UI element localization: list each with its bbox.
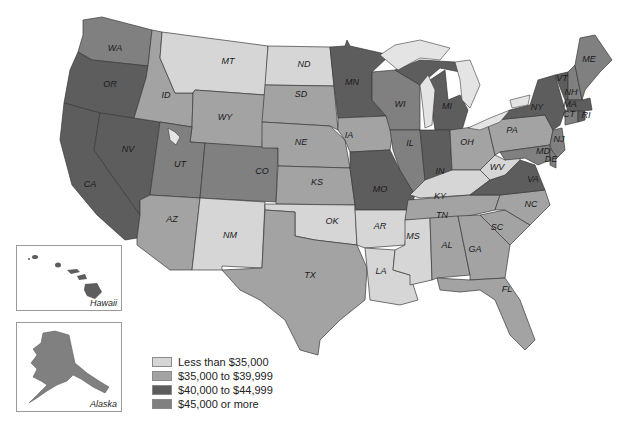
label-MI: MI: [442, 101, 452, 111]
label-VT: VT: [556, 73, 569, 83]
label-NY: NY: [531, 102, 544, 112]
alaska-inset: Alaska: [16, 322, 122, 412]
hawaii-inset: Hawaii: [16, 245, 122, 311]
island-niihau: [28, 258, 30, 260]
label-OR: OR: [103, 79, 117, 89]
label-ME: ME: [582, 54, 596, 64]
label-KS: KS: [311, 177, 323, 187]
legend-item-35-39: $35,000 to $39,999: [152, 369, 273, 382]
label-CA: CA: [84, 179, 97, 189]
label-OK: OK: [325, 216, 339, 226]
legend-swatch: [152, 357, 172, 367]
label-WY: WY: [218, 112, 233, 122]
legend: Less than $35,000 $35,000 to $39,999 $40…: [152, 355, 273, 411]
label-WI: WI: [395, 99, 406, 109]
legend-label: Less than $35,000: [178, 356, 269, 368]
label-WA: WA: [108, 43, 122, 53]
label-OH: OH: [460, 137, 474, 147]
label-MO: MO: [373, 184, 388, 194]
label-AR: AR: [373, 221, 387, 231]
label-ND: ND: [298, 59, 311, 69]
label-FL: FL: [502, 284, 513, 294]
island-oahu: [55, 263, 61, 268]
label-AL: AL: [440, 240, 452, 250]
label-KY: KY: [434, 191, 447, 201]
legend-swatch: [152, 385, 172, 395]
label-AZ: AZ: [165, 214, 178, 224]
label-IN: IN: [436, 166, 446, 176]
hawaii-label: Hawaii: [90, 298, 117, 308]
label-CO: CO: [255, 166, 269, 176]
label-NM: NM: [223, 230, 237, 240]
legend-swatch: [152, 399, 172, 409]
island-maui: [77, 274, 87, 280]
label-IL: IL: [406, 138, 414, 148]
alaska-label: Alaska: [90, 399, 117, 409]
label-IA: IA: [345, 130, 354, 140]
label-MN: MN: [345, 77, 359, 87]
legend-swatch: [152, 371, 172, 381]
legend-item-45-plus: $45,000 or more: [152, 397, 273, 410]
legend-label: $45,000 or more: [178, 398, 259, 410]
label-PA: PA: [506, 125, 517, 135]
label-DE: DE: [545, 154, 558, 164]
label-VA: VA: [527, 174, 539, 184]
label-NE: NE: [295, 137, 308, 147]
label-WV: WV: [490, 162, 505, 172]
label-UT: UT: [174, 159, 187, 169]
legend-label: $40,000 to $44,999: [178, 384, 273, 396]
legend-item-less-35: Less than $35,000: [152, 355, 273, 368]
label-CT: CT: [563, 109, 576, 119]
label-TX: TX: [304, 270, 316, 280]
label-SD: SD: [295, 89, 308, 99]
label-LA: LA: [375, 266, 386, 276]
label-TN: TN: [436, 210, 448, 220]
label-NV: NV: [122, 144, 135, 154]
state-AZ: [137, 195, 200, 270]
state-ME: [575, 35, 612, 100]
label-NJ: NJ: [554, 134, 565, 144]
island-kauai: [32, 255, 38, 259]
label-NC: NC: [525, 199, 538, 209]
label-RI: RI: [582, 110, 591, 120]
island-big-island: [84, 283, 102, 299]
island-molokai: [67, 269, 80, 274]
alaska-mainland: [29, 331, 109, 403]
label-MT: MT: [222, 56, 236, 66]
label-GA: GA: [468, 244, 481, 254]
label-MS: MS: [406, 231, 420, 241]
state-MT: [160, 32, 268, 95]
label-SC: SC: [491, 222, 504, 232]
alaska-shape: [17, 323, 121, 411]
legend-label: $35,000 to $39,999: [178, 370, 273, 382]
label-NH: NH: [565, 87, 578, 97]
state-FL: [437, 278, 535, 350]
label-MA: MA: [563, 99, 577, 109]
legend-item-40-44: $40,000 to $44,999: [152, 383, 273, 396]
label-ID: ID: [162, 90, 172, 100]
